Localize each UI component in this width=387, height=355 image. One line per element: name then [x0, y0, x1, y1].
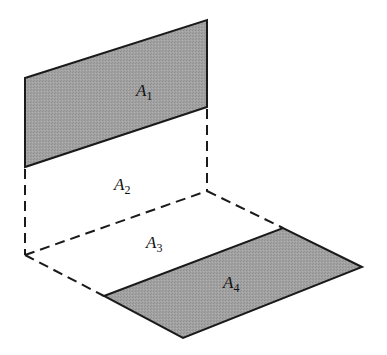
label-a2: A2 — [114, 176, 130, 196]
label-a1-subscript: 1 — [146, 89, 152, 103]
region-a1-shaded — [25, 20, 207, 167]
dashed-edge-front-left — [25, 255, 104, 296]
label-a3-letter: A — [146, 233, 156, 252]
label-a1: A1 — [136, 82, 152, 102]
dashed-edge-fold — [25, 191, 207, 255]
label-a4: A4 — [223, 274, 239, 294]
label-a2-letter: A — [114, 175, 124, 194]
label-a4-subscript: 4 — [233, 281, 239, 295]
label-a1-letter: A — [136, 81, 146, 100]
diagram-canvas: A1 A2 A3 A4 — [0, 0, 387, 355]
dashed-edge-back-right — [207, 191, 283, 228]
label-a3-subscript: 3 — [156, 241, 162, 255]
diagram-svg — [0, 0, 387, 355]
label-a2-subscript: 2 — [124, 183, 130, 197]
label-a3: A3 — [146, 234, 162, 254]
label-a4-letter: A — [223, 273, 233, 292]
